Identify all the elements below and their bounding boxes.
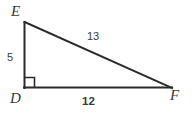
- side-length-label-df: 12: [82, 96, 95, 108]
- vertex-label-e: E: [11, 4, 20, 19]
- geometry-figure: E D F 5 13 12: [0, 0, 192, 118]
- vertex-label-d: D: [10, 91, 21, 106]
- triangle-drawing: [0, 0, 192, 118]
- side-length-label-ef: 13: [87, 31, 99, 42]
- vertex-label-f: F: [170, 88, 179, 103]
- side-length-label-de: 5: [7, 52, 13, 63]
- right-angle-marker-icon: [25, 78, 35, 88]
